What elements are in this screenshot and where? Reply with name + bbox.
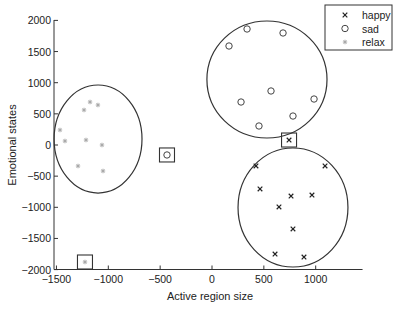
- relax-point: [84, 138, 88, 142]
- relax-point: [96, 103, 100, 107]
- y-tick-label: 1000: [28, 77, 52, 89]
- scatter-chart: 2000150010005000−500−1000−1500−2000−1500…: [0, 0, 399, 310]
- sad-point: [256, 123, 262, 129]
- happy-point: [302, 255, 307, 260]
- outlier-boxes: [77, 133, 296, 269]
- y-axis-label: Emotional states: [6, 104, 18, 186]
- relax-point: [100, 143, 104, 147]
- sad-point: [238, 99, 244, 105]
- happy-point: [291, 227, 296, 232]
- x-tick-label: 500: [255, 273, 273, 285]
- y-tick-label: −1000: [22, 201, 52, 213]
- x-tick-label: −1500: [42, 273, 72, 285]
- relax-point: [82, 108, 86, 112]
- sad-point: [280, 30, 286, 36]
- relax-point: [101, 169, 105, 173]
- happy-point: [289, 194, 294, 199]
- sad-point: [290, 113, 296, 119]
- legend-label-relax: relax: [362, 36, 386, 48]
- x-tick-label: 1000: [304, 273, 328, 285]
- sad-outlier-box: [159, 148, 174, 162]
- x-tick-label: −1000: [94, 273, 124, 285]
- data-points: [58, 26, 328, 264]
- happy-point: [258, 187, 263, 192]
- legend-marker-relax: [343, 40, 347, 44]
- relax-point: [76, 164, 80, 168]
- cluster-ellipse-relax: [54, 85, 142, 193]
- cluster-ellipse-sad: [207, 21, 327, 138]
- sad-point: [311, 96, 317, 102]
- x-axis-label: Active region size: [167, 290, 253, 302]
- y-tick-label: 2000: [28, 14, 52, 26]
- sad-point: [268, 88, 274, 94]
- cluster-ellipses: [54, 21, 348, 267]
- happy-point: [310, 193, 315, 198]
- x-tick-label: 0: [209, 273, 215, 285]
- happy-point: [277, 205, 282, 210]
- relax-point: [58, 128, 62, 132]
- axes: 2000150010005000−500−1000−1500−2000−1500…: [22, 14, 363, 285]
- sad-outlier-point: [164, 152, 170, 158]
- legend-label-happy: happy: [362, 9, 391, 21]
- sad-point: [244, 26, 250, 32]
- cluster-ellipse-happy: [238, 148, 348, 267]
- y-tick-label: 500: [33, 108, 51, 120]
- relax-point: [88, 100, 92, 104]
- y-tick-label: −500: [27, 170, 51, 182]
- relax-point: [63, 139, 67, 143]
- legend-label-sad: sad: [362, 23, 379, 35]
- happy-outlier-point: [287, 138, 292, 143]
- happy-point: [323, 164, 328, 169]
- legend: happysadrelax: [325, 5, 392, 50]
- relax-outlier-point: [83, 260, 87, 264]
- sad-point: [226, 43, 232, 49]
- y-tick-label: 1500: [28, 46, 52, 58]
- x-tick-label: −500: [148, 273, 172, 285]
- y-tick-label: 0: [45, 139, 51, 151]
- y-tick-label: −1500: [22, 232, 52, 244]
- happy-point: [273, 252, 278, 257]
